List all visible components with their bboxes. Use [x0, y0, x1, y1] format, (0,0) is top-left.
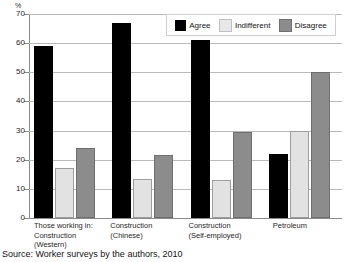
legend-item-agree: Agree — [175, 20, 210, 31]
bar-agree — [34, 46, 53, 218]
bar-group — [269, 14, 330, 218]
bar-chart: % 010203040506070 AgreeIndifferentDisagr… — [0, 0, 347, 262]
bar-indifferent — [133, 179, 152, 218]
y-axis-tick-label: 0 — [3, 214, 25, 222]
bar-group — [191, 14, 252, 218]
y-axis-tick-label: 70 — [3, 10, 25, 18]
bar-indifferent — [55, 168, 74, 218]
bar-agree — [112, 23, 131, 218]
category-label: Petroleum — [273, 221, 307, 231]
bar-agree — [269, 154, 288, 218]
bar-indifferent — [212, 180, 231, 218]
chart-legend: AgreeIndifferentDisagree — [166, 14, 336, 36]
bar-group — [112, 14, 173, 218]
legend-label-disagree: Disagree — [295, 21, 327, 30]
legend-swatch-agree — [175, 20, 186, 31]
bar-indifferent — [290, 131, 309, 218]
bar-disagree — [311, 72, 330, 218]
legend-label-indifferent: Indifferent — [235, 21, 270, 30]
category-label: Construction (Self-employed) — [189, 221, 242, 240]
category-label: Those working in: Construction (Western) — [34, 221, 93, 250]
x-axis-line — [29, 218, 342, 219]
y-axis-unit-label: % — [15, 2, 21, 9]
y-axis-tick-label: 10 — [3, 185, 25, 193]
bar-disagree — [154, 155, 173, 218]
bar-disagree — [76, 148, 95, 218]
plot-area: 010203040506070 — [29, 14, 342, 218]
bar-agree — [191, 40, 210, 218]
y-axis-tick-label: 20 — [3, 156, 25, 164]
y-axis-tick-label: 60 — [3, 39, 25, 47]
legend-item-indifferent: Indifferent — [219, 19, 270, 32]
legend-label-agree: Agree — [189, 21, 210, 30]
legend-item-disagree: Disagree — [279, 19, 327, 32]
y-axis-tick-label: 30 — [3, 127, 25, 135]
category-label: Construction (Chinese) — [110, 221, 152, 240]
legend-swatch-indifferent — [219, 19, 232, 32]
y-axis-tick-label: 50 — [3, 68, 25, 76]
y-axis-tick-label: 40 — [3, 97, 25, 105]
legend-swatch-disagree — [279, 19, 292, 32]
bar-disagree — [233, 132, 252, 218]
source-note: Source: Worker surveys by the authors, 2… — [2, 249, 182, 259]
bar-group — [34, 14, 95, 218]
